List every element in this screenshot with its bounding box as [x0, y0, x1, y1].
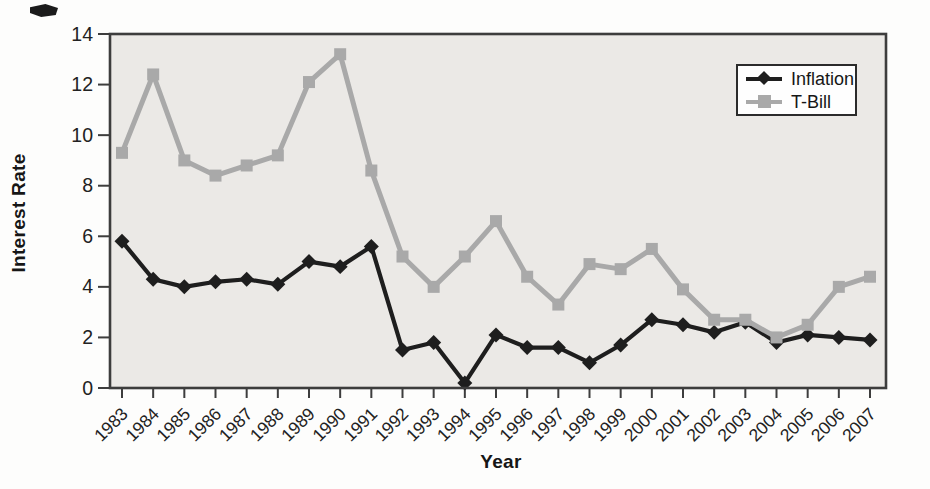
x-tick-label-1985: 1985	[152, 404, 194, 446]
data-point-t-bill-1984	[147, 68, 159, 80]
x-tick-label-2004: 2004	[745, 404, 787, 446]
data-point-t-bill-2000	[646, 243, 658, 255]
x-tick-label-1999: 1999	[589, 404, 631, 446]
legend-label-tbill: T-Bill	[791, 92, 831, 112]
data-point-t-bill-1988	[272, 149, 284, 161]
x-tick-label-1998: 1998	[558, 404, 600, 446]
chart-figure: 0246810121419831984198519861987198819891…	[0, 0, 930, 489]
x-tick-label-1991: 1991	[339, 404, 381, 446]
data-point-t-bill-1994	[459, 251, 471, 263]
x-tick-label-1988: 1988	[246, 404, 288, 446]
data-point-t-bill-1991	[365, 165, 377, 177]
x-axis-title: Year	[456, 451, 546, 473]
square-icon	[758, 95, 771, 108]
data-point-t-bill-1987	[241, 159, 253, 171]
x-tick-label-2002: 2002	[682, 404, 724, 446]
x-tick-label-1993: 1993	[402, 404, 444, 446]
data-point-t-bill-1992	[397, 251, 409, 263]
x-tick-label-1997: 1997	[526, 404, 568, 446]
data-point-t-bill-1990	[334, 48, 346, 60]
y-tick-label-12: 12	[71, 73, 93, 95]
data-point-t-bill-1985	[178, 154, 190, 166]
x-tick-label-2007: 2007	[838, 404, 880, 446]
tbill-line-icon	[746, 100, 782, 104]
data-point-t-bill-2004	[771, 331, 783, 343]
x-tick-label-2001: 2001	[651, 404, 693, 446]
data-point-t-bill-2007	[864, 271, 876, 283]
data-point-t-bill-2003	[739, 314, 751, 326]
x-tick-label-1987: 1987	[215, 404, 257, 446]
diamond-icon	[757, 71, 771, 85]
data-point-t-bill-1996	[521, 271, 533, 283]
y-tick-label-6: 6	[82, 225, 93, 247]
y-tick-label-10: 10	[71, 124, 93, 146]
data-point-t-bill-2002	[708, 314, 720, 326]
y-tick-label-0: 0	[82, 377, 93, 399]
x-tick-label-1984: 1984	[121, 404, 163, 446]
x-tick-label-2000: 2000	[620, 404, 662, 446]
x-tick-label-1983: 1983	[90, 404, 132, 446]
y-axis-title: Interest Rate	[8, 131, 30, 295]
x-tick-label-2005: 2005	[776, 404, 818, 446]
data-point-t-bill-1998	[584, 258, 596, 270]
data-point-t-bill-2006	[833, 281, 845, 293]
data-point-t-bill-2005	[802, 319, 814, 331]
legend: Inflation T-Bill	[736, 64, 857, 116]
data-point-t-bill-2001	[677, 283, 689, 295]
legend-label-inflation: Inflation	[791, 69, 854, 89]
data-point-t-bill-1986	[210, 170, 222, 182]
y-tick-label-8: 8	[82, 174, 93, 196]
data-point-t-bill-1999	[615, 263, 627, 275]
x-tick-label-2003: 2003	[713, 404, 755, 446]
data-point-t-bill-1989	[303, 76, 315, 88]
y-tick-label-14: 14	[71, 23, 93, 45]
x-tick-label-1989: 1989	[277, 404, 319, 446]
data-point-t-bill-1995	[490, 215, 502, 227]
inflation-line-icon	[746, 77, 782, 81]
x-tick-label-1996: 1996	[495, 404, 537, 446]
y-tick-label-2: 2	[82, 326, 93, 348]
y-tick-label-4: 4	[82, 275, 93, 297]
x-tick-label-1990: 1990	[308, 404, 350, 446]
x-tick-label-1992: 1992	[371, 404, 413, 446]
legend-item-inflation: Inflation	[746, 69, 855, 89]
x-tick-label-2006: 2006	[807, 404, 849, 446]
x-tick-label-1994: 1994	[433, 404, 475, 446]
x-tick-label-1986: 1986	[184, 404, 226, 446]
data-point-t-bill-1993	[428, 281, 440, 293]
legend-item-tbill: T-Bill	[746, 92, 855, 112]
data-point-t-bill-1997	[552, 299, 564, 311]
x-tick-label-1995: 1995	[464, 404, 506, 446]
data-point-t-bill-1983	[116, 147, 128, 159]
